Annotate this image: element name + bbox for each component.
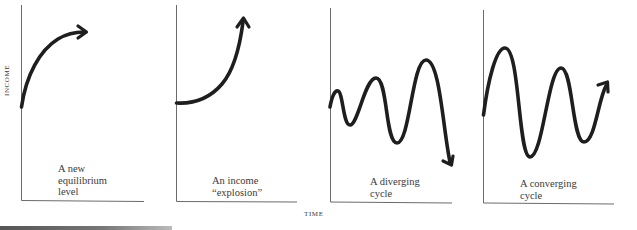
caption-line: cycle <box>370 188 420 200</box>
curve-diverging <box>330 60 450 162</box>
caption-line: equilibrium <box>58 175 107 187</box>
caption-converging: A converging cycle <box>520 178 577 201</box>
caption-line: cycle <box>520 190 577 202</box>
caption-line: A diverging <box>370 176 420 188</box>
y-axis-label: INCOME <box>3 65 11 96</box>
caption-line: level <box>58 186 107 198</box>
caption-line: A new <box>58 163 107 175</box>
caption-line: A converging <box>520 178 577 190</box>
caption-line: “explosion” <box>212 187 262 199</box>
curve-converging <box>484 48 607 157</box>
caption-line: An income <box>212 175 262 187</box>
page-edge-shadow <box>0 226 172 230</box>
curve-equilibrium <box>22 32 85 107</box>
y-axis <box>484 10 615 204</box>
panel-diverging <box>330 8 453 203</box>
x-axis-label: TIME <box>304 210 324 218</box>
y-axis <box>177 5 298 202</box>
caption-diverging: A diverging cycle <box>370 176 420 199</box>
panel-explosion <box>177 5 298 202</box>
panel-converging <box>484 10 615 204</box>
caption-explosion: An income “explosion” <box>212 175 262 198</box>
y-axis <box>331 8 453 203</box>
curve-explosion <box>177 22 244 103</box>
caption-equilibrium: A new equilibrium level <box>58 163 107 198</box>
